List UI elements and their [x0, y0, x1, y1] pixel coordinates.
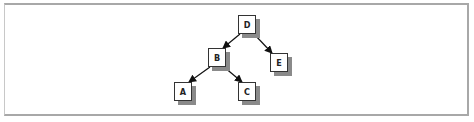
edge-b-a: [189, 67, 210, 82]
tree-node-a: A: [174, 82, 192, 101]
tree-edges: [0, 0, 474, 122]
edge-b-c: [224, 67, 242, 82]
tree-node-c: C: [238, 82, 256, 101]
tree-node-d: D: [238, 15, 256, 34]
edge-d-b: [223, 34, 240, 48]
edge-d-e: [254, 34, 272, 53]
tree-node-e: E: [270, 53, 288, 72]
tree-node-b: B: [208, 48, 226, 67]
